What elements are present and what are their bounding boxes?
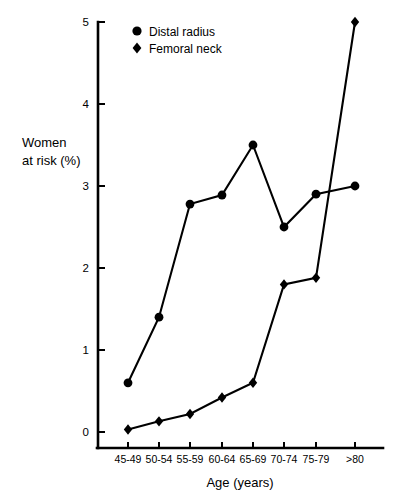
y-tick-label: 2 xyxy=(83,262,89,274)
y-tick-label: 4 xyxy=(83,98,90,110)
x-axis-ticks: 45-4950-5455-5960-6465-6970-7475-79>80 xyxy=(115,442,364,465)
x-tick-label: 50-54 xyxy=(146,453,173,465)
diamond-marker-icon xyxy=(155,416,163,426)
circle-marker-icon xyxy=(249,141,258,150)
diamond-marker-icon xyxy=(351,17,359,27)
circle-marker-icon xyxy=(124,378,133,387)
legend-item-label: Distal radius xyxy=(149,25,215,39)
diamond-marker-icon xyxy=(124,424,132,434)
circle-marker-icon xyxy=(351,182,360,191)
y-axis-ticks: 012345 xyxy=(83,16,105,438)
x-tick-label: 45-49 xyxy=(115,453,142,465)
chart-container: 012345 45-4950-5455-5960-6465-6970-7475-… xyxy=(0,0,393,495)
circle-marker-icon xyxy=(280,223,289,232)
diamond-marker-icon xyxy=(186,409,194,419)
chart-legend: Distal radiusFemoral neck xyxy=(132,25,222,56)
y-tick-label: 3 xyxy=(83,180,89,192)
y-tick-label: 5 xyxy=(83,16,89,28)
circle-marker-icon xyxy=(218,191,227,200)
x-tick-label: 75-79 xyxy=(303,453,330,465)
diamond-marker-icon xyxy=(280,279,288,289)
x-tick-label: >80 xyxy=(346,453,364,465)
chart-axes xyxy=(97,22,383,448)
x-tick-label: 70-74 xyxy=(271,453,298,465)
circle-marker-icon xyxy=(155,313,164,322)
circle-marker-icon xyxy=(312,190,321,199)
y-axis-title-line1: Women xyxy=(22,135,67,150)
data-series-layer xyxy=(124,17,360,435)
x-tick-label: 60-64 xyxy=(209,453,236,465)
series-line-circle xyxy=(128,145,355,383)
x-tick-label: 65-69 xyxy=(240,453,267,465)
series-line-diamond xyxy=(128,22,355,430)
diamond-marker-icon xyxy=(312,273,320,283)
diamond-marker-icon xyxy=(218,392,226,402)
y-tick-label: 1 xyxy=(83,344,89,356)
x-axis-title: Age (years) xyxy=(206,475,273,490)
circle-marker-icon xyxy=(132,26,141,35)
diamond-marker-icon xyxy=(133,42,142,53)
y-tick-label: 0 xyxy=(83,426,89,438)
circle-marker-icon xyxy=(186,200,195,209)
x-tick-label: 55-59 xyxy=(177,453,204,465)
y-axis-title-line2: at risk (%) xyxy=(22,153,81,168)
legend-item-label: Femoral neck xyxy=(149,42,223,56)
y-axis-title: Women at risk (%) xyxy=(22,135,81,168)
diamond-marker-icon xyxy=(249,378,257,388)
risk-by-age-line-chart: 012345 45-4950-5455-5960-6465-6970-7475-… xyxy=(0,0,393,495)
